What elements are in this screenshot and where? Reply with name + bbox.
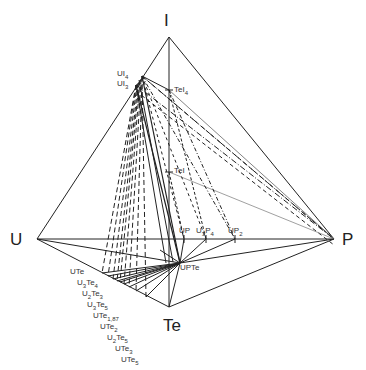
label-TeI: TeI xyxy=(174,167,185,175)
tie-UI3-UTe187 xyxy=(120,82,139,282)
vertex-label-I: I xyxy=(164,12,169,29)
edge-P-Te xyxy=(169,239,334,307)
label-UPTe: UPTe xyxy=(180,264,200,272)
label-UP2: UP2 xyxy=(228,227,242,237)
label-TeI4: TeI4 xyxy=(174,86,188,96)
label-U3P4: U3P4 xyxy=(196,227,214,237)
tetrahedron-diagram xyxy=(0,0,366,370)
label-UI3: UI3 xyxy=(117,80,128,90)
tie-UI-UPTe-b xyxy=(139,80,173,262)
label-U2Te5: U2Te5 xyxy=(107,334,128,344)
label-U2Te3: U2Te3 xyxy=(82,290,103,300)
vertex-label-U: U xyxy=(10,231,22,248)
label-UTe: UTe xyxy=(70,268,84,276)
label-U3Te4: U3Te4 xyxy=(77,279,98,289)
label-UTe2: UTe2 xyxy=(100,323,118,333)
label-UTe187: UTe1,87 xyxy=(93,312,119,322)
tie-TeI-P xyxy=(169,172,334,239)
tie-TeI4-U3P4 xyxy=(169,90,206,239)
label-UP: UP xyxy=(179,227,190,235)
tie-UPTe-P xyxy=(180,239,334,263)
tie-UPTe-UP2 xyxy=(180,239,235,263)
tie-UI3-U3Te5 xyxy=(117,83,138,281)
edge-I-P xyxy=(169,37,334,239)
tie-UPTe-Te xyxy=(169,263,180,307)
vertex-label-P: P xyxy=(342,231,353,248)
label-UTe3: UTe3 xyxy=(115,345,133,355)
label-UTe5: UTe5 xyxy=(121,356,139,366)
phase-diagram: I U P Te UI4 UI3 TeI4 TeI UP U3P4 UP2 UP… xyxy=(0,0,366,370)
tie-UI3-U2Te3 xyxy=(113,84,137,279)
vertex-label-Te: Te xyxy=(163,317,181,334)
label-U3Te5: U3Te5 xyxy=(87,301,108,311)
tie-TeI4-P xyxy=(169,90,334,239)
tie-UPTe-U xyxy=(37,239,180,263)
tie-UI3-P xyxy=(136,85,334,239)
